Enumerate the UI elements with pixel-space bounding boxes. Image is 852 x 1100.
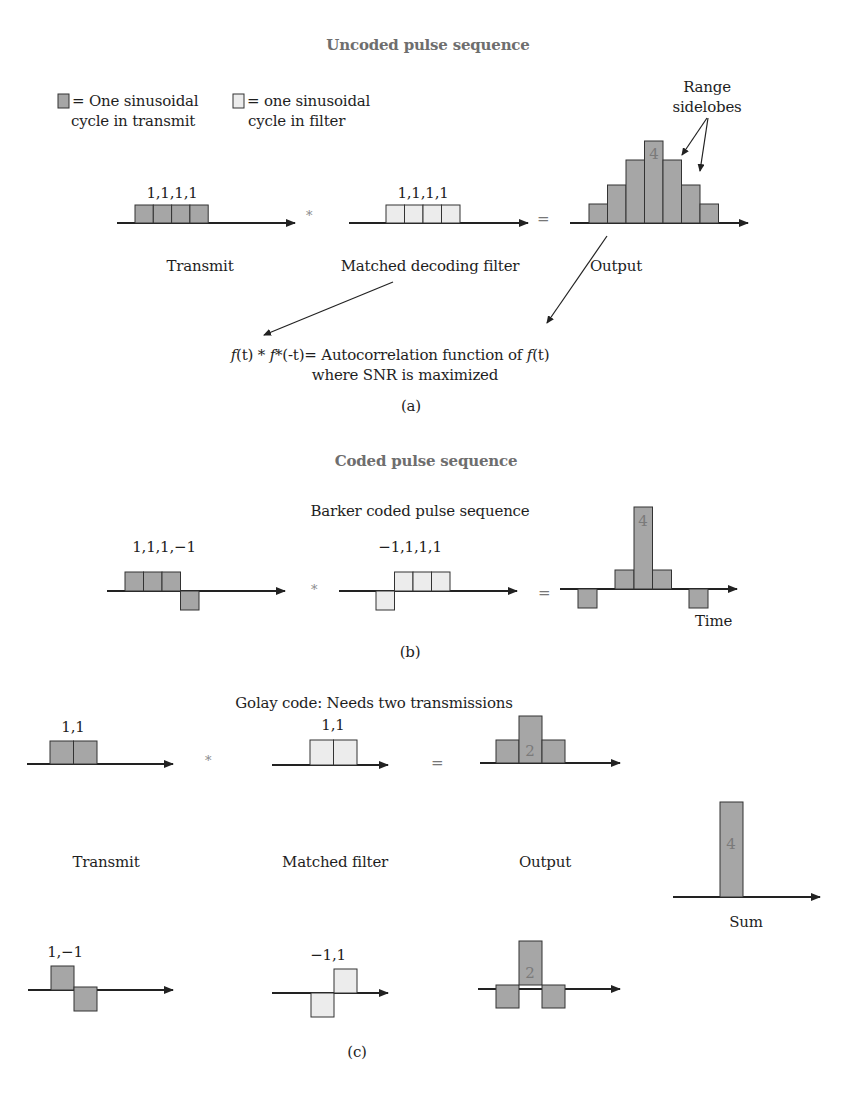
convolution-operator-c: * (205, 753, 212, 768)
barker-peak-value: 4 (638, 512, 648, 530)
caption-c: (c) (347, 1043, 367, 1061)
caption-b: (b) (400, 643, 421, 661)
legend-filter-swatch (233, 94, 244, 108)
golay-output-2 (478, 941, 620, 1008)
equals-sign-c: = (431, 754, 443, 772)
golay-output-1 (480, 716, 620, 763)
panel-a-header: Uncoded pulse sequence (326, 36, 529, 54)
convolution-operator-b: * (311, 582, 318, 597)
barker-subtitle: Barker coded pulse sequence (311, 502, 530, 520)
range-sidelobes-line2: sidelobes (672, 98, 741, 116)
label-matched-filter-c: Matched filter (282, 853, 388, 871)
panel-b-header: Coded pulse sequence (335, 452, 518, 470)
golay-filter-1-code: 1,1 (321, 716, 344, 734)
output-to-formula-arrow (547, 236, 607, 323)
label-matched-decoding-filter: Matched decoding filter (341, 257, 520, 275)
autocorrelation-formula: f(t) * f*(-t)= Autocorrelation function … (231, 346, 550, 364)
golay-sum-output (673, 802, 820, 897)
formula-part-3: (t) (532, 346, 549, 364)
equals-sign: = (537, 210, 549, 228)
golay-transmit-1-code: 1,1 (61, 718, 84, 736)
convolution-operator: * (306, 208, 313, 223)
label-output: Output (590, 257, 642, 275)
legend-transmit-line1: = One sinusoidal (72, 92, 198, 110)
legend-transmit-swatch (58, 94, 69, 108)
uncoded-output-autocorrelation (570, 141, 748, 223)
barker-output-autocorrelation (560, 507, 737, 608)
formula-part-1: (t) * (236, 346, 270, 364)
label-output-c: Output (519, 853, 571, 871)
time-axis-label: Time (695, 612, 732, 630)
uncoded-filter-code: 1,1,1,1 (397, 184, 448, 202)
uncoded-transmit-pulse (117, 205, 295, 223)
filter-to-formula-arrow (264, 282, 393, 335)
legend-transmit-line2: cycle in transmit (71, 112, 195, 130)
barker-filter-pulse (339, 572, 517, 610)
autocorrelation-formula-line2: where SNR is maximized (312, 366, 498, 384)
golay-transmit-2-code: 1,−1 (47, 943, 83, 961)
golay-transmit-2 (28, 966, 173, 1011)
caption-a: (a) (401, 397, 421, 415)
equals-sign-b: = (538, 584, 550, 602)
barker-filter-code: −1,1,1,1 (378, 538, 441, 556)
label-transmit: Transmit (167, 257, 234, 275)
golay-sum-peak: 4 (726, 835, 736, 853)
uncoded-peak-value: 4 (649, 145, 659, 163)
sum-label: Sum (729, 913, 763, 931)
golay-output-1-peak: 2 (525, 742, 535, 760)
range-sidelobes-line1: Range (683, 78, 731, 96)
uncoded-filter-pulse (349, 205, 528, 223)
golay-transmit-1 (27, 741, 173, 764)
uncoded-transmit-code: 1,1,1,1 (146, 184, 197, 202)
barker-transmit-pulse (107, 572, 285, 610)
formula-part-2: *(-t)= Autocorrelation function of (275, 346, 527, 364)
golay-filter-2 (272, 969, 388, 1017)
label-transmit-c: Transmit (73, 853, 140, 871)
golay-filter-1 (272, 740, 388, 765)
golay-output-2-peak: 2 (525, 964, 535, 982)
golay-subtitle: Golay code: Needs two transmissions (235, 694, 512, 712)
barker-transmit-code: 1,1,1,−1 (132, 538, 195, 556)
golay-filter-2-code: −1,1 (310, 946, 346, 964)
legend-filter-line2: cycle in filter (248, 112, 345, 130)
legend-filter-line1: = one sinusoidal (247, 92, 370, 110)
